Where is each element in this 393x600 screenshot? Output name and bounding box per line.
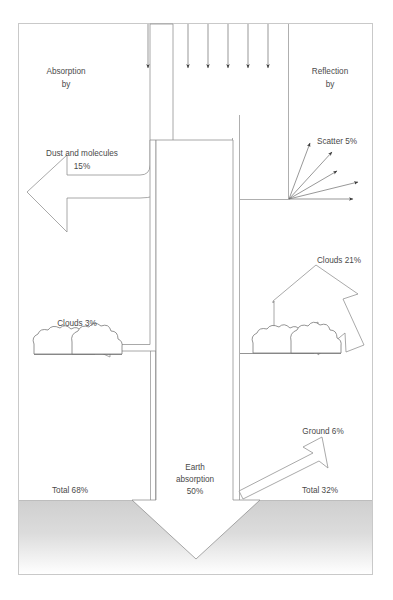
clouds-absorption-block-arrow [90, 140, 156, 357]
clouds-right-label: Clouds 21% [317, 256, 361, 265]
earth-label-line3: 50% [187, 487, 203, 496]
scatter-arrow-icon [289, 152, 332, 199]
dust-label-line1: Dust and molecules [46, 149, 118, 158]
absorption-heading-line2: by [62, 80, 72, 89]
earth-label-line2: absorption [176, 475, 215, 484]
scatter-arrow-icon [289, 143, 310, 199]
total-right-label: Total 32% [302, 486, 338, 495]
clouds-left-label: Clouds 3% [57, 319, 97, 328]
diagram-canvas: Absorption by Reflection by Dust and mol… [0, 0, 393, 600]
scatter-rays [240, 143, 358, 200]
reflection-heading-line2: by [326, 80, 336, 89]
total-left-label: Total 68% [52, 486, 88, 495]
reflection-heading-line1: Reflection [312, 67, 349, 76]
scatter-arrow-icon [289, 182, 358, 199]
scatter-label: Scatter 5% [317, 137, 357, 146]
absorption-heading-line1: Absorption [46, 67, 86, 76]
ground-label: Ground 6% [302, 427, 343, 436]
scatter-arrow-icon [289, 171, 337, 199]
earth-label-line1: Earth [185, 463, 205, 472]
solar-radiation-budget-diagram: Absorption by Reflection by Dust and mol… [0, 0, 393, 600]
dust-label-line2: 15% [74, 162, 90, 171]
